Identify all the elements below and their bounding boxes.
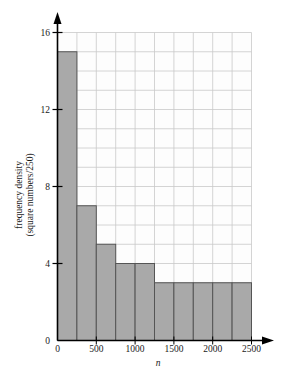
x-tick-label: 500	[89, 344, 103, 354]
histogram-bar	[96, 244, 115, 340]
histogram-bar	[116, 264, 135, 341]
x-axis-label-text: n	[156, 358, 161, 368]
x-tick-label: 1000	[126, 344, 145, 354]
y-axis-label: frequency density (square numbers/250)	[8, 120, 42, 270]
histogram-bar	[193, 283, 212, 341]
y-axis-label-line2: (square numbers/250)	[25, 153, 36, 236]
x-axis-label: n	[0, 358, 281, 368]
histogram-bar	[213, 283, 232, 341]
x-axis-arrow-icon	[262, 337, 274, 345]
histogram-bar	[58, 52, 77, 341]
x-tick-label: 2500	[242, 344, 261, 354]
histogram-bar	[135, 264, 154, 341]
y-tick-label: 4	[28, 259, 50, 269]
histogram-bar	[77, 206, 96, 341]
y-tick-label: 12	[28, 105, 50, 115]
y-tick-label: 16	[28, 28, 50, 38]
x-tick-label: 2000	[203, 344, 222, 354]
y-axis-arrow-icon	[54, 12, 62, 24]
x-tick-label: 1500	[164, 344, 183, 354]
histogram-bar	[155, 283, 174, 341]
y-tick-label: 8	[28, 182, 50, 192]
histogram-bar	[174, 283, 193, 341]
histogram-figure: frequency density (square numbers/250) n…	[0, 0, 281, 378]
x-tick-label: 0	[55, 344, 60, 354]
y-tick-label: 0	[28, 336, 50, 346]
histogram-bar	[232, 283, 251, 341]
y-axis-label-line1: frequency density	[14, 153, 25, 236]
